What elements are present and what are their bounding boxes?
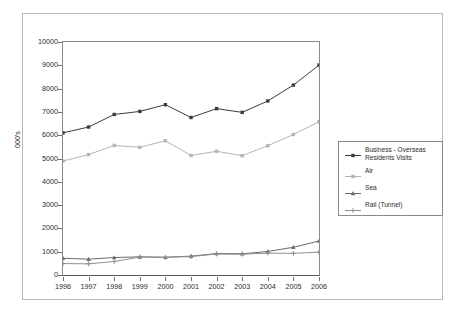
legend-entry-1[interactable]: Air — [343, 167, 373, 176]
data-point-marker-cross — [240, 252, 245, 257]
data-point-marker-square — [241, 154, 244, 157]
data-point-marker-square — [189, 154, 192, 157]
data-point-marker-square — [113, 144, 116, 147]
data-point-marker-square — [317, 63, 319, 66]
y-axis-tick-label: 3000 — [42, 201, 58, 209]
legend-marker-square-icon — [343, 146, 363, 155]
x-axis-tick-label: 2006 — [304, 283, 334, 291]
chart-legend: Business - Overseas Residents VisitsAirS… — [338, 141, 443, 216]
data-point-marker-square — [63, 159, 65, 162]
data-point-marker-square — [292, 83, 295, 86]
legend-entry-0[interactable]: Business - Overseas Residents Visits — [343, 146, 426, 162]
y-axis-tick-label: 7000 — [42, 108, 58, 116]
x-axis-tick-mark — [114, 277, 115, 281]
y-axis-tick-label: 5000 — [42, 155, 58, 163]
data-point-marker-square — [164, 103, 167, 106]
x-axis-tick-mark — [268, 277, 269, 281]
legend-entry-3[interactable]: Rail (Tunnel) — [343, 201, 403, 210]
legend-entry-2[interactable]: Sea — [343, 184, 377, 193]
x-axis-tick-mark — [89, 277, 90, 281]
data-point-marker-square — [215, 150, 218, 153]
data-point-marker-square — [266, 144, 269, 147]
legend-label-2: Sea — [363, 184, 377, 192]
legend-marker-triangle-icon — [343, 184, 363, 193]
legend-label-1: Air — [363, 167, 373, 175]
data-point-marker-square — [138, 110, 141, 113]
x-axis-tick-mark — [165, 277, 166, 281]
y-axis-tick-label: 2000 — [42, 224, 58, 232]
legend-label-0: Business - Overseas Residents Visits — [363, 146, 426, 162]
plot-series-svg — [63, 42, 319, 275]
y-axis-tick-label: 10000 — [38, 38, 58, 46]
data-point-marker-square — [292, 133, 295, 136]
y-axis-tick-label: 8000 — [42, 85, 58, 93]
series-line — [63, 65, 319, 133]
data-point-marker-square — [87, 153, 90, 156]
data-point-marker-square — [189, 116, 192, 119]
series-0 — [63, 63, 319, 134]
plot-area — [62, 41, 320, 276]
x-axis-tick-mark — [319, 277, 320, 281]
data-point-marker-cross — [291, 251, 296, 256]
y-axis-tick-label: 1000 — [42, 248, 58, 256]
data-point-marker-cross — [189, 254, 194, 259]
chart-figure: 000's 0100020003000400050006000700080009… — [0, 0, 466, 322]
legend-marker-cross-icon — [343, 201, 363, 210]
legend-marker-square-icon — [343, 167, 363, 176]
data-point-marker-triangle — [317, 239, 319, 243]
y-axis-tick-labels: 0100020003000400050006000700080009000100… — [18, 0, 58, 322]
y-axis-tick-label: 9000 — [42, 61, 58, 69]
x-axis-tick-mark — [217, 277, 218, 281]
data-point-marker-cross — [214, 252, 219, 257]
data-point-marker-square — [215, 107, 218, 110]
x-axis-tick-mark — [242, 277, 243, 281]
x-axis-tick-mark — [293, 277, 294, 281]
x-axis-tick-mark — [140, 277, 141, 281]
data-point-marker-square — [63, 131, 65, 134]
data-point-marker-cross — [86, 261, 91, 266]
series-1 — [63, 120, 319, 163]
x-axis-tick-mark — [191, 277, 192, 281]
data-point-marker-cross — [63, 261, 65, 266]
data-point-marker-cross — [137, 255, 142, 260]
y-axis-tick-label: 6000 — [42, 131, 58, 139]
data-point-marker-square — [351, 154, 354, 157]
data-point-marker-square — [138, 146, 141, 149]
data-point-marker-square — [87, 125, 90, 128]
data-point-marker-square — [266, 99, 269, 102]
legend-label-3: Rail (Tunnel) — [363, 201, 403, 209]
data-point-marker-cross — [112, 259, 117, 264]
data-point-marker-cross — [317, 250, 319, 255]
data-point-marker-square — [351, 175, 354, 178]
data-point-marker-square — [113, 113, 116, 116]
data-point-marker-square — [241, 111, 244, 114]
data-point-marker-cross — [351, 208, 356, 213]
y-axis-tick-label: 4000 — [42, 178, 58, 186]
x-axis-tick-mark — [63, 277, 64, 281]
data-point-marker-square — [164, 139, 167, 142]
data-point-marker-square — [317, 120, 319, 123]
